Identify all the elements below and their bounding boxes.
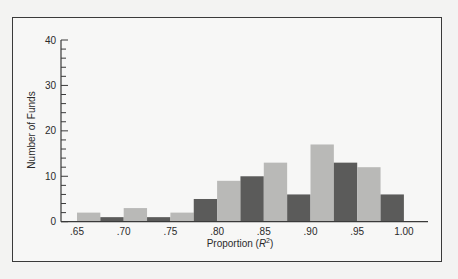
x-axis-title: Proportion (R2) [207,237,274,249]
histogram-bar [170,213,193,222]
histogram-bar [287,194,310,221]
y-tick-label: 20 [45,125,57,136]
x-tick-label: .80 [210,226,224,237]
bars [77,144,404,221]
x-tick-label: 1.00 [394,226,414,237]
y-tick-label: 40 [45,35,57,46]
x-tick-label: .70 [117,226,131,237]
x-tick-label: .65 [70,226,84,237]
histogram-bar [240,176,263,221]
y-tick-label: 30 [45,80,57,91]
y-axis: 010203040 [45,35,68,228]
x-axis: .65.70.75.80.85.90.951.00 [61,222,428,237]
y-tick-label: 10 [45,171,57,182]
histogram-bar [264,163,287,222]
histogram-chart: 010203040 .65.70.75.80.85.90.951.00 Numb… [0,0,458,279]
histogram-bar [334,163,357,222]
histogram-bar [124,208,147,222]
histogram-bar [381,194,404,221]
histogram-bar [100,217,123,222]
histogram-bar [217,181,240,222]
x-tick-label: .95 [350,226,364,237]
x-tick-label: .75 [163,226,177,237]
y-axis-title: Number of Funds [26,91,37,168]
y-tick-label: 0 [50,216,56,227]
histogram-bar [194,199,217,222]
histogram-bar [147,217,170,222]
x-tick-label: .85 [257,226,271,237]
histogram-bar [77,213,100,222]
x-tick-label: .90 [304,226,318,237]
histogram-bar [357,167,380,222]
histogram-bar [311,144,334,221]
